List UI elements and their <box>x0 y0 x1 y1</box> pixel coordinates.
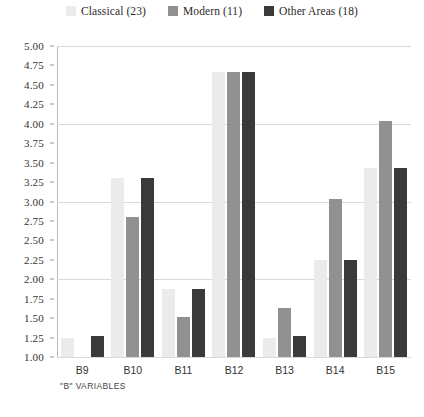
y-tick-label: 4.25 <box>0 98 44 110</box>
y-tick-label: 1.00 <box>0 351 44 363</box>
y-tick-label: 1.50 <box>0 312 44 324</box>
bar <box>162 289 175 357</box>
bar <box>293 336 306 357</box>
bar <box>329 199 342 357</box>
bar <box>379 121 392 357</box>
legend-swatch-classical <box>66 6 76 16</box>
y-tick-mark <box>50 318 54 319</box>
bar <box>242 72 255 357</box>
bar <box>314 260 327 357</box>
bar <box>177 317 190 357</box>
y-tick-label: 1.25 <box>0 332 44 344</box>
y-tick-mark <box>50 279 54 280</box>
bar-group <box>108 46 159 357</box>
bar <box>126 217 139 357</box>
y-tick-label: 1.75 <box>0 293 44 305</box>
bar <box>212 72 225 357</box>
chart-page: Classical (23) Modern (11) Other Areas (… <box>0 0 424 417</box>
y-tick-label: 4.75 <box>0 59 44 71</box>
y-tick-mark <box>50 104 54 105</box>
bar <box>111 178 124 357</box>
y-tick-mark <box>50 162 54 163</box>
legend-swatch-modern <box>168 6 178 16</box>
legend-swatch-other-areas <box>264 6 274 16</box>
bar-group <box>158 46 209 357</box>
bar-group <box>360 46 411 357</box>
legend-label-classical: Classical (23) <box>81 5 146 17</box>
bar <box>227 72 240 357</box>
y-tick-label: 2.75 <box>0 215 44 227</box>
x-tick-label: B13 <box>275 364 294 376</box>
gridline <box>57 357 411 358</box>
y-tick-label: 2.25 <box>0 254 44 266</box>
y-tick-label: 2.00 <box>0 273 44 285</box>
x-tick-label: B14 <box>326 364 345 376</box>
bar-group <box>310 46 361 357</box>
y-tick-mark <box>50 201 54 202</box>
bar-group <box>259 46 310 357</box>
x-axis-title: "B" VARIABLES <box>60 381 126 391</box>
legend-item-modern: Modern (11) <box>168 5 242 17</box>
y-tick-label: 4.50 <box>0 79 44 91</box>
x-tick-label: B12 <box>225 364 244 376</box>
bar <box>192 289 205 357</box>
bar <box>394 168 407 357</box>
bar <box>91 336 104 357</box>
y-tick-label: 3.25 <box>0 176 44 188</box>
y-tick-mark <box>50 46 54 47</box>
y-tick-label: 5.00 <box>0 40 44 52</box>
bar <box>278 308 291 357</box>
x-tick-label: B9 <box>76 364 89 376</box>
bar <box>61 338 74 357</box>
y-tick-mark <box>50 123 54 124</box>
y-tick-label: 3.00 <box>0 196 44 208</box>
x-tick-label: B15 <box>376 364 395 376</box>
plot-area <box>57 46 411 357</box>
bar <box>364 168 377 357</box>
y-tick-mark <box>50 220 54 221</box>
y-tick-mark <box>50 65 54 66</box>
bar <box>141 178 154 357</box>
y-tick-mark <box>50 182 54 183</box>
y-tick-mark <box>50 84 54 85</box>
y-tick-label: 2.50 <box>0 234 44 246</box>
bar <box>344 260 357 357</box>
legend-label-other-areas: Other Areas (18) <box>279 5 358 17</box>
chart-legend: Classical (23) Modern (11) Other Areas (… <box>0 0 424 22</box>
bar <box>263 338 276 357</box>
y-tick-label: 3.50 <box>0 157 44 169</box>
y-tick-mark <box>50 337 54 338</box>
x-tick-label: B10 <box>124 364 143 376</box>
bar-group <box>209 46 260 357</box>
y-tick-mark <box>50 357 54 358</box>
y-tick-mark <box>50 298 54 299</box>
legend-item-other-areas: Other Areas (18) <box>264 5 358 17</box>
y-tick-mark <box>50 240 54 241</box>
y-tick-mark <box>50 259 54 260</box>
y-tick-mark <box>50 143 54 144</box>
y-tick-label: 4.00 <box>0 118 44 130</box>
y-tick-label: 3.75 <box>0 137 44 149</box>
legend-item-classical: Classical (23) <box>66 5 146 17</box>
x-tick-label: B11 <box>174 364 192 376</box>
legend-label-modern: Modern (11) <box>183 5 242 17</box>
bar-group <box>57 46 108 357</box>
